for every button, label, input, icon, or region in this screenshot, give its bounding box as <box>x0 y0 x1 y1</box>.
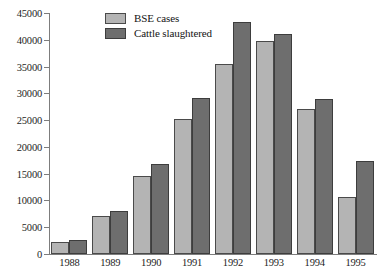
bar-1993-cattle-slaughtered <box>274 34 292 254</box>
x-tick-label-1995: 1995 <box>345 257 365 268</box>
y-tick-label: 5000 <box>22 222 42 233</box>
y-tick-label: 40000 <box>17 34 42 45</box>
bar-group-1993 <box>253 13 294 254</box>
x-axis-line <box>49 254 377 255</box>
plot-area: 0500010000150002000025000300003500040000… <box>49 13 376 254</box>
bar-group-1990 <box>131 13 172 254</box>
bar-1988-cattle-slaughtered <box>69 240 87 254</box>
bar-1995-bse-cases <box>338 197 356 254</box>
x-tick-label-1989: 1989 <box>100 257 120 268</box>
bar-1989-bse-cases <box>92 216 110 254</box>
y-tick-label: 45000 <box>17 8 42 19</box>
bar-group-1992 <box>213 13 254 254</box>
bar-1993-bse-cases <box>256 41 274 254</box>
y-tick-label: 10000 <box>17 195 42 206</box>
y-tick-label: 15000 <box>17 168 42 179</box>
x-tick-label-1991: 1991 <box>182 257 202 268</box>
bar-group-1995 <box>335 13 376 254</box>
x-tick-label-1988: 1988 <box>59 257 79 268</box>
y-tick-mark <box>44 254 49 255</box>
y-tick-label: 30000 <box>17 88 42 99</box>
bar-group-1989 <box>90 13 131 254</box>
bar-1994-bse-cases <box>297 109 315 254</box>
bar-1989-cattle-slaughtered <box>110 211 128 254</box>
bar-1990-cattle-slaughtered <box>151 164 169 254</box>
bar-group-1991 <box>172 13 213 254</box>
y-tick-label: 25000 <box>17 115 42 126</box>
y-tick-label: 35000 <box>17 61 42 72</box>
bar-1991-cattle-slaughtered <box>192 98 210 254</box>
x-tick-label-1994: 1994 <box>305 257 325 268</box>
bar-group-1994 <box>294 13 335 254</box>
bar-group-1988 <box>49 13 90 254</box>
y-tick-label: 20000 <box>17 141 42 152</box>
bar-1995-cattle-slaughtered <box>356 161 374 254</box>
bar-1990-bse-cases <box>133 176 151 254</box>
bar-1994-cattle-slaughtered <box>315 99 333 254</box>
bar-1992-cattle-slaughtered <box>233 22 251 254</box>
bse-bar-chart: BSE cases Cattle slaughtered 05000100001… <box>0 0 386 278</box>
y-tick-label: 0 <box>37 249 42 260</box>
bar-1988-bse-cases <box>51 242 69 254</box>
bar-1992-bse-cases <box>215 64 233 254</box>
x-tick-label-1992: 1992 <box>223 257 243 268</box>
bar-1991-bse-cases <box>174 119 192 254</box>
x-tick-label-1990: 1990 <box>141 257 161 268</box>
x-tick-label-1993: 1993 <box>264 257 284 268</box>
